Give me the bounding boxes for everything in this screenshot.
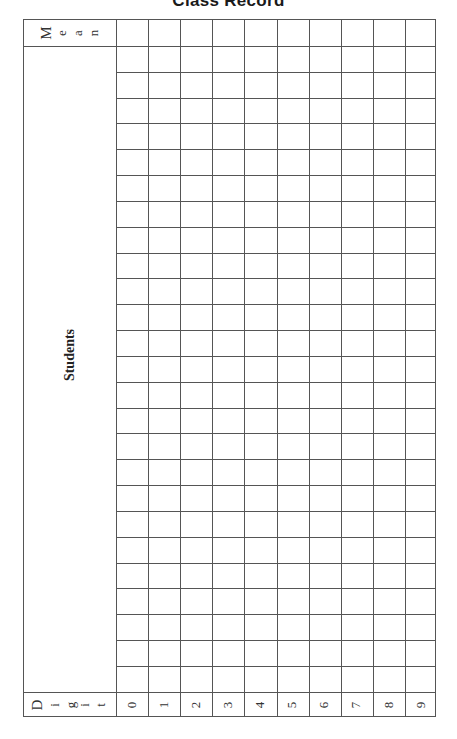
student-cell[interactable] — [181, 228, 211, 252]
student-cell[interactable] — [406, 512, 436, 536]
mean-cell[interactable] — [342, 21, 372, 45]
student-cell[interactable] — [278, 357, 308, 381]
student-cell[interactable] — [310, 486, 340, 510]
student-cell[interactable] — [245, 279, 275, 303]
student-cell[interactable] — [117, 305, 147, 329]
student-cell[interactable] — [181, 305, 211, 329]
student-cell[interactable] — [374, 486, 404, 510]
student-cell[interactable] — [278, 589, 308, 613]
student-cell[interactable] — [342, 279, 372, 303]
student-cell[interactable] — [310, 73, 340, 97]
student-cell[interactable] — [117, 641, 147, 665]
student-cell[interactable] — [213, 228, 243, 252]
student-cell[interactable] — [245, 564, 275, 588]
student-cell[interactable] — [149, 460, 179, 484]
student-cell[interactable] — [406, 99, 436, 123]
student-cell[interactable] — [406, 47, 436, 71]
mean-cell[interactable] — [181, 21, 211, 45]
student-cell[interactable] — [278, 383, 308, 407]
student-cell[interactable] — [310, 331, 340, 355]
student-cell[interactable] — [245, 305, 275, 329]
mean-cell[interactable] — [278, 21, 308, 45]
student-cell[interactable] — [278, 73, 308, 97]
student-cell[interactable] — [117, 667, 147, 691]
student-cell[interactable] — [278, 538, 308, 562]
student-cell[interactable] — [374, 512, 404, 536]
student-cell[interactable] — [149, 538, 179, 562]
student-cell[interactable] — [181, 409, 211, 433]
student-cell[interactable] — [406, 460, 436, 484]
student-cell[interactable] — [310, 589, 340, 613]
student-cell[interactable] — [342, 202, 372, 226]
student-cell[interactable] — [149, 150, 179, 174]
student-cell[interactable] — [213, 615, 243, 639]
student-cell[interactable] — [374, 409, 404, 433]
student-cell[interactable] — [278, 47, 308, 71]
student-cell[interactable] — [117, 564, 147, 588]
student-cell[interactable] — [149, 564, 179, 588]
student-cell[interactable] — [149, 331, 179, 355]
student-cell[interactable] — [310, 409, 340, 433]
student-cell[interactable] — [213, 460, 243, 484]
student-cell[interactable] — [181, 589, 211, 613]
student-cell[interactable] — [149, 73, 179, 97]
student-cell[interactable] — [181, 383, 211, 407]
student-cell[interactable] — [245, 409, 275, 433]
student-cell[interactable] — [406, 124, 436, 148]
student-cell[interactable] — [310, 357, 340, 381]
student-cell[interactable] — [149, 47, 179, 71]
student-cell[interactable] — [374, 254, 404, 278]
student-cell[interactable] — [117, 589, 147, 613]
student-cell[interactable] — [310, 460, 340, 484]
student-cell[interactable] — [310, 99, 340, 123]
student-cell[interactable] — [278, 486, 308, 510]
student-cell[interactable] — [213, 331, 243, 355]
student-cell[interactable] — [117, 279, 147, 303]
student-cell[interactable] — [310, 564, 340, 588]
student-cell[interactable] — [181, 512, 211, 536]
student-cell[interactable] — [213, 254, 243, 278]
student-cell[interactable] — [245, 615, 275, 639]
student-cell[interactable] — [149, 357, 179, 381]
student-cell[interactable] — [181, 99, 211, 123]
student-cell[interactable] — [310, 615, 340, 639]
student-cell[interactable] — [245, 538, 275, 562]
student-cell[interactable] — [374, 564, 404, 588]
student-cell[interactable] — [374, 47, 404, 71]
student-cell[interactable] — [342, 47, 372, 71]
student-cell[interactable] — [117, 99, 147, 123]
student-cell[interactable] — [117, 73, 147, 97]
student-cell[interactable] — [310, 124, 340, 148]
student-cell[interactable] — [181, 641, 211, 665]
student-cell[interactable] — [181, 254, 211, 278]
student-cell[interactable] — [310, 667, 340, 691]
student-cell[interactable] — [406, 589, 436, 613]
student-cell[interactable] — [213, 176, 243, 200]
student-cell[interactable] — [342, 331, 372, 355]
student-cell[interactable] — [374, 73, 404, 97]
student-cell[interactable] — [374, 615, 404, 639]
student-cell[interactable] — [245, 486, 275, 510]
student-cell[interactable] — [181, 176, 211, 200]
student-cell[interactable] — [342, 357, 372, 381]
student-cell[interactable] — [117, 202, 147, 226]
student-cell[interactable] — [342, 460, 372, 484]
student-cell[interactable] — [181, 202, 211, 226]
student-cell[interactable] — [117, 512, 147, 536]
student-cell[interactable] — [149, 589, 179, 613]
student-cell[interactable] — [310, 512, 340, 536]
student-cell[interactable] — [213, 150, 243, 174]
student-cell[interactable] — [213, 486, 243, 510]
mean-cell[interactable] — [213, 21, 243, 45]
student-cell[interactable] — [278, 228, 308, 252]
student-cell[interactable] — [213, 641, 243, 665]
student-cell[interactable] — [342, 305, 372, 329]
student-cell[interactable] — [213, 512, 243, 536]
student-cell[interactable] — [406, 667, 436, 691]
student-cell[interactable] — [406, 73, 436, 97]
student-cell[interactable] — [374, 202, 404, 226]
student-cell[interactable] — [117, 409, 147, 433]
student-cell[interactable] — [117, 538, 147, 562]
student-cell[interactable] — [213, 409, 243, 433]
student-cell[interactable] — [245, 124, 275, 148]
